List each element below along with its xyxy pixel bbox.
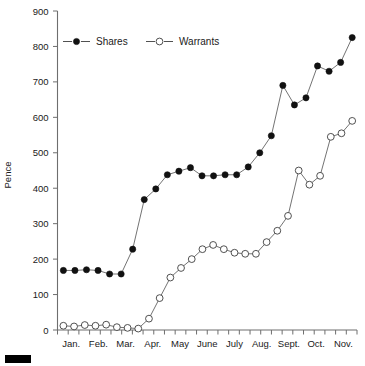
y-tick-label: 800: [33, 41, 49, 52]
data-point-warrants: [146, 315, 153, 322]
y-axis-tick-labels: 0100200300400500600700800900: [33, 6, 49, 336]
data-point-shares: [314, 63, 320, 69]
series-line-shares: [63, 38, 352, 274]
corner-mark: [5, 355, 31, 363]
data-point-warrants: [124, 324, 131, 331]
data-point-warrants: [210, 242, 217, 249]
data-point-warrants: [349, 117, 356, 124]
data-point-shares: [153, 186, 159, 192]
y-tick-label: 300: [33, 218, 49, 229]
data-point-warrants: [327, 133, 334, 140]
data-point-shares: [118, 271, 124, 277]
data-point-shares: [176, 168, 182, 174]
data-point-warrants: [253, 250, 260, 257]
data-point-shares: [245, 164, 251, 170]
x-axis-ticks: [58, 330, 358, 335]
x-tick-label: Feb.: [89, 338, 108, 349]
data-point-warrants: [60, 322, 67, 329]
x-tick-label: Aug.: [252, 338, 272, 349]
legend-label-shares: Shares: [96, 36, 128, 47]
data-point-warrants: [167, 274, 174, 281]
data-point-warrants: [178, 265, 185, 272]
data-point-warrants: [199, 246, 206, 253]
x-tick-label: July: [226, 338, 243, 349]
chart-container: 0100200300400500600700800900 Jan.Feb.Mar…: [0, 0, 365, 366]
x-tick-label: Jan.: [62, 338, 80, 349]
data-point-shares: [199, 173, 205, 179]
series-markers: [60, 34, 356, 331]
data-point-shares: [130, 246, 136, 252]
y-axis-title: Pence: [2, 162, 13, 189]
x-tick-label: Apr.: [144, 338, 161, 349]
chart-legend: Shares Warrants: [63, 36, 219, 47]
data-point-warrants: [113, 324, 120, 331]
y-tick-label: 500: [33, 147, 49, 158]
data-point-shares: [291, 102, 297, 108]
data-point-shares: [72, 267, 78, 273]
line-chart: 0100200300400500600700800900 Jan.Feb.Mar…: [0, 0, 365, 366]
y-tick-label: 100: [33, 289, 49, 300]
y-tick-label: 900: [33, 6, 49, 17]
x-axis-tick-labels: Jan.Feb.Mar.Apr.MayJuneJulyAug.Sept.Oct.…: [62, 338, 353, 349]
x-tick-label: June: [197, 338, 218, 349]
data-point-warrants: [306, 181, 313, 188]
data-point-warrants: [156, 295, 163, 302]
data-point-shares: [257, 150, 263, 156]
legend-label-warrants: Warrants: [179, 36, 219, 47]
data-point-shares: [187, 165, 193, 171]
y-tick-label: 600: [33, 112, 49, 123]
data-point-warrants: [71, 323, 78, 330]
data-point-warrants: [285, 212, 292, 219]
data-point-shares: [222, 172, 228, 178]
data-point-shares: [106, 271, 112, 277]
data-point-warrants: [242, 250, 249, 257]
data-point-shares: [95, 267, 101, 273]
data-point-shares: [141, 196, 147, 202]
data-point-shares: [210, 173, 216, 179]
open-circle-icon: [156, 38, 163, 45]
data-point-warrants: [338, 130, 345, 137]
data-point-warrants: [274, 227, 281, 234]
data-point-warrants: [135, 325, 142, 332]
data-point-warrants: [295, 167, 302, 174]
x-tick-label: Mar.: [116, 338, 134, 349]
series-line-warrants: [63, 121, 352, 329]
data-point-shares: [234, 172, 240, 178]
legend-item-shares: Shares: [63, 36, 128, 47]
y-tick-label: 400: [33, 183, 49, 194]
data-point-warrants: [263, 239, 270, 246]
filled-circle-icon: [73, 38, 79, 44]
y-tick-label: 700: [33, 76, 49, 87]
x-tick-label: Oct.: [307, 338, 324, 349]
data-point-shares: [83, 267, 89, 273]
data-point-shares: [280, 82, 286, 88]
x-tick-label: Nov.: [334, 338, 353, 349]
data-point-shares: [338, 59, 344, 65]
data-point-shares: [326, 68, 332, 74]
y-tick-label: 0: [43, 325, 48, 336]
data-point-shares: [60, 267, 66, 273]
data-point-warrants: [188, 256, 195, 263]
x-tick-label: May: [171, 338, 189, 349]
data-point-warrants: [81, 322, 88, 329]
x-tick-label: Sept.: [278, 338, 300, 349]
data-point-shares: [303, 95, 309, 101]
y-tick-label: 200: [33, 254, 49, 265]
data-point-shares: [349, 34, 355, 40]
y-axis-ticks: [53, 11, 58, 330]
data-point-warrants: [231, 249, 238, 256]
data-point-warrants: [220, 246, 227, 253]
data-point-warrants: [103, 321, 110, 328]
data-point-shares: [164, 172, 170, 178]
legend-item-warrants: Warrants: [146, 36, 219, 47]
data-point-warrants: [92, 322, 99, 329]
data-point-shares: [268, 133, 274, 139]
data-point-warrants: [317, 172, 324, 179]
